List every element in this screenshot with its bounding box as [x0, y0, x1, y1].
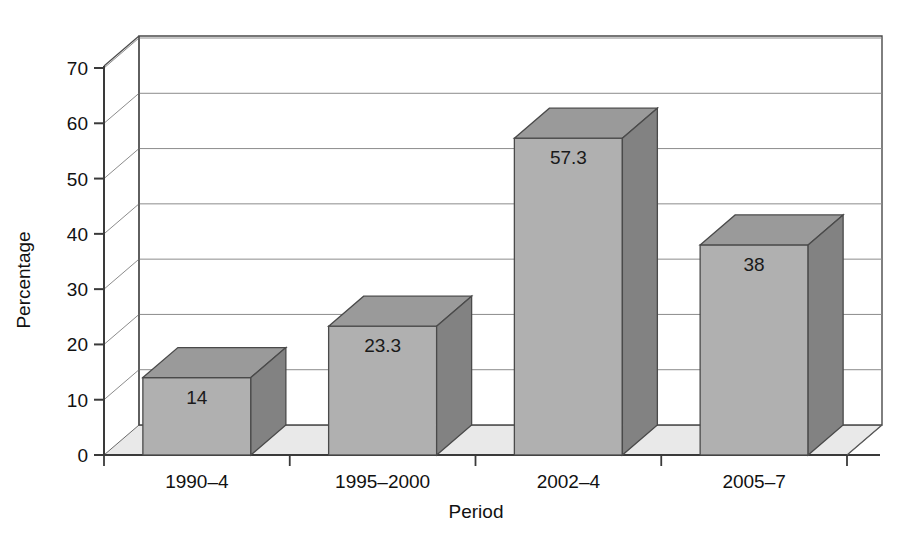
bar-value-label: 57.3 — [550, 147, 587, 168]
bar-value-label: 38 — [744, 254, 765, 275]
chart-container: 010203040506070 1423.357.338 1990–41995–… — [0, 0, 922, 545]
bar[interactable]: 57.3 — [514, 108, 657, 455]
bar-value-label: 23.3 — [364, 335, 401, 356]
x-axis-labels: 1990–41995–20002002–42005–7 — [104, 455, 847, 492]
gridline-depth-connector — [104, 204, 139, 234]
gridline-depth-connector — [104, 38, 139, 68]
y-axis-tick-label: 0 — [77, 445, 88, 466]
y-axis-tick-label: 70 — [67, 58, 88, 79]
gridline-depth-connector — [104, 259, 139, 289]
top-left-depth-edge — [104, 36, 139, 66]
x-axis-category-label: 2005–7 — [722, 471, 785, 492]
y-axis-tick-label: 40 — [67, 224, 88, 245]
bar-side-face — [808, 215, 843, 455]
y-axis-tick-label: 50 — [67, 169, 88, 190]
y-axis-tick-label: 30 — [67, 279, 88, 300]
bar[interactable]: 14 — [143, 348, 286, 455]
gridline-depth-connector — [104, 149, 139, 179]
bar-front-face — [700, 245, 808, 455]
bar-front-face — [514, 138, 622, 455]
bar[interactable]: 23.3 — [329, 296, 472, 455]
x-axis-category-label: 1995–2000 — [335, 471, 430, 492]
bar-side-face — [622, 108, 657, 455]
y-axis-tick-label: 10 — [67, 390, 88, 411]
gridline-depth-connector — [104, 93, 139, 123]
x-axis-category-label: 1990–4 — [165, 471, 229, 492]
y-axis-tick-label: 60 — [67, 113, 88, 134]
y-axis-tick-label: 20 — [67, 334, 88, 355]
bar-value-label: 14 — [186, 387, 208, 408]
bar-chart-3d: 010203040506070 1423.357.338 1990–41995–… — [0, 0, 922, 545]
gridline-depth-connector — [104, 370, 139, 400]
gridline-depth-connector — [104, 314, 139, 344]
y-axis-title: Percentage — [13, 231, 34, 328]
x-axis-category-label: 2002–4 — [537, 471, 601, 492]
x-axis-title: Period — [449, 501, 504, 522]
bar[interactable]: 38 — [700, 215, 843, 455]
